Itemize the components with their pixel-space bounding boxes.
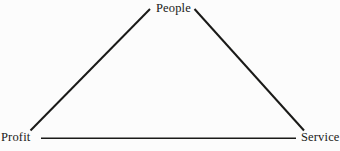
edge-profit-people xyxy=(31,9,151,131)
triangle-edges-svg xyxy=(0,0,340,151)
triangle-diagram: People Profit Service xyxy=(0,0,340,151)
vertex-label-people: People xyxy=(156,1,191,15)
edge-people-service xyxy=(195,9,305,131)
vertex-label-profit: Profit xyxy=(1,130,30,144)
vertex-label-service: Service xyxy=(301,130,340,144)
